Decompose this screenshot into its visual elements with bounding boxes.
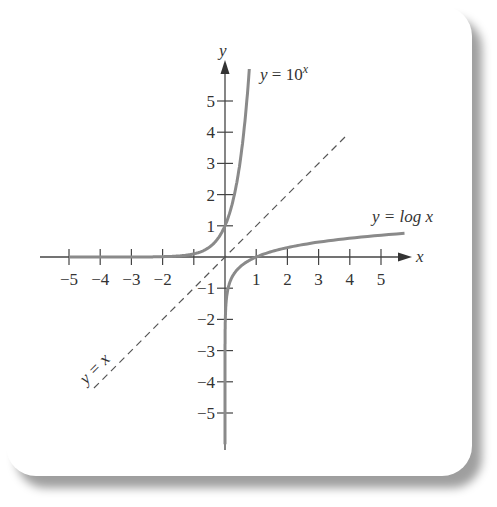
x-tick-label: −3 [122, 270, 140, 289]
y-tick-label: 2 [207, 186, 216, 205]
x-tick-label: −5 [60, 270, 78, 289]
x-tick-label: 1 [252, 270, 261, 289]
x-tick-label: −4 [91, 270, 110, 289]
x-tick-label: 5 [377, 270, 386, 289]
log-curve-label: y = log x [370, 207, 433, 226]
x-tick-label: −2 [154, 270, 172, 289]
x-tick-label: 2 [283, 270, 292, 289]
exp-curve-label: y = 10x [258, 62, 309, 84]
x-axis-label: x [415, 247, 424, 266]
log-curve [225, 233, 405, 444]
y-axis-label: y [217, 41, 227, 60]
x-tick-label: 3 [314, 270, 323, 289]
y-tick-label: 4 [207, 123, 216, 142]
y-tick-label: 3 [207, 154, 216, 173]
y-tick-label: −3 [197, 342, 215, 361]
y-tick-label: −5 [197, 404, 215, 423]
y-tick-label: −2 [197, 310, 215, 329]
function-graph: −5−4−3−212345−5−4−3−2−112345 x y y = 10x… [0, 0, 497, 507]
y-tick-label: 1 [207, 217, 216, 236]
identity-line-label: y = x [74, 349, 114, 389]
y-tick-label: −4 [197, 373, 216, 392]
x-tick-label: 4 [346, 270, 355, 289]
y-tick-label: 5 [207, 92, 216, 111]
